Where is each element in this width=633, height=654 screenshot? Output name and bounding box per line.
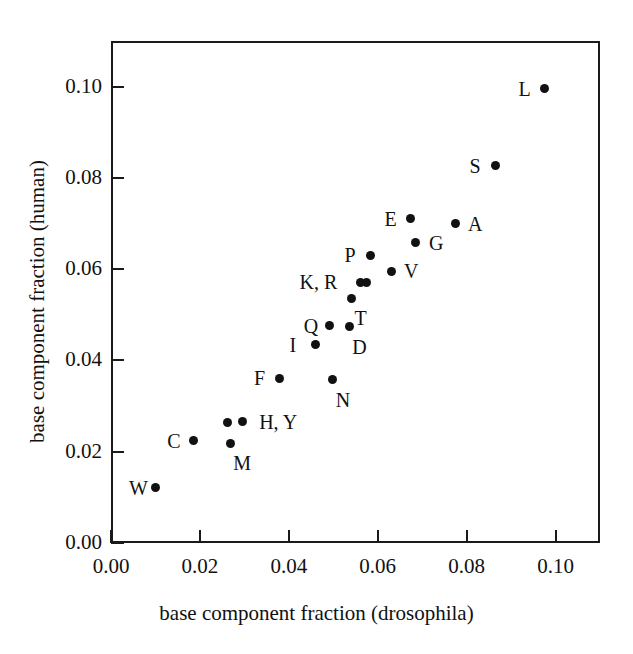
x-tick-label: 0.04	[244, 556, 334, 577]
x-tick-label: 0.10	[511, 556, 601, 577]
data-point-c	[189, 436, 198, 445]
y-tick-mark	[111, 359, 124, 361]
data-point-t	[347, 294, 356, 303]
x-tick-mark	[377, 530, 379, 543]
point-label-g: G	[429, 233, 443, 253]
point-label-i: I	[289, 335, 296, 355]
x-axis-title: base component fraction (drosophila)	[0, 601, 633, 626]
x-tick-mark	[288, 530, 290, 543]
point-label-e: E	[385, 209, 397, 229]
point-label-a: A	[468, 214, 482, 234]
point-label-r: K, R	[300, 272, 338, 292]
point-label-v: V	[404, 261, 418, 281]
data-point-a	[451, 219, 460, 228]
x-tick-mark	[466, 530, 468, 543]
data-point-m	[226, 439, 235, 448]
point-label-m: M	[233, 453, 251, 473]
y-tick-mark	[111, 268, 124, 270]
x-tick-mark	[199, 530, 201, 543]
x-tick-label: 0.08	[422, 556, 512, 577]
point-label-c: C	[167, 431, 180, 451]
point-label-q: Q	[304, 316, 318, 336]
point-label-s: S	[470, 156, 481, 176]
point-label-t: T	[354, 308, 366, 328]
data-point-h	[223, 418, 232, 427]
point-label-l: L	[518, 79, 530, 99]
y-axis-title: base component fraction (human)	[25, 42, 50, 562]
y-tick-mark	[111, 542, 124, 544]
plot-area-frame	[111, 41, 600, 543]
data-point-r	[362, 278, 371, 287]
data-point-v	[387, 267, 396, 276]
point-label-p: P	[345, 245, 356, 265]
data-point-y	[238, 417, 247, 426]
x-tick-label: 0.06	[333, 556, 423, 577]
x-tick-label: 0.02	[155, 556, 245, 577]
y-tick-mark	[111, 86, 124, 88]
x-tick-label: 0.00	[66, 556, 156, 577]
data-point-w	[151, 483, 160, 492]
y-tick-mark	[111, 451, 124, 453]
data-point-p	[366, 251, 375, 260]
point-label-w: W	[129, 478, 148, 498]
x-tick-mark	[110, 530, 112, 543]
scatter-plot-figure: 0.000.020.040.060.080.10 0.000.020.040.0…	[0, 0, 633, 654]
point-label-d: D	[352, 337, 366, 357]
point-label-y: H, Y	[259, 412, 297, 432]
data-point-d	[345, 322, 354, 331]
point-label-n: N	[336, 390, 350, 410]
point-label-f: F	[254, 368, 265, 388]
y-tick-mark	[111, 177, 124, 179]
x-tick-mark	[555, 530, 557, 543]
